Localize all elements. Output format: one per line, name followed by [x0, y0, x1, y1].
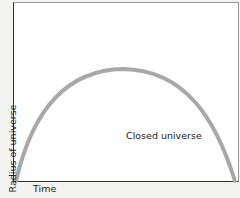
- x-axis-label: Time: [33, 183, 56, 194]
- curve-annotation: Closed universe: [126, 130, 202, 141]
- closed-universe-curve: [0, 0, 240, 197]
- y-axis-label: Radius of universe: [7, 99, 18, 198]
